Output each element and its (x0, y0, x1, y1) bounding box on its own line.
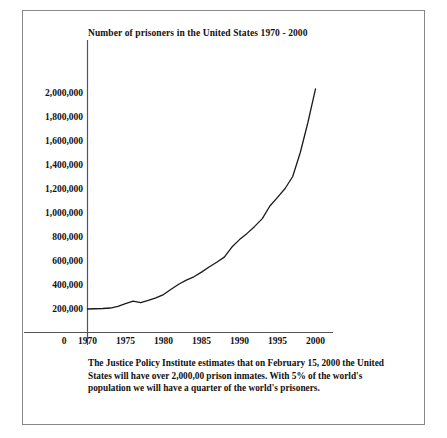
x-axis-tick-label: 1985 (192, 336, 211, 346)
x-axis-tick-label: 1990 (230, 336, 249, 346)
x-axis-tick-label: 1970 (78, 336, 97, 346)
screenshot-root: Number of prisoners in the United States… (0, 0, 447, 438)
y-axis-origin-label: 0 (62, 336, 67, 346)
x-axis-tick-label: 2000 (306, 336, 325, 346)
caption-line-2: States will have over 2,000,00 prison in… (88, 370, 408, 383)
x-axis-tick-label: 1980 (154, 336, 173, 346)
x-axis-tick-label: 1975 (116, 336, 135, 346)
caption-line-1: The Justice Policy Institute estimates t… (88, 357, 408, 370)
caption-line-3: population we will have a quarter of the… (88, 382, 408, 395)
chart-caption: The Justice Policy Institute estimates t… (88, 357, 408, 395)
x-axis-tick-label: 1995 (268, 336, 287, 346)
